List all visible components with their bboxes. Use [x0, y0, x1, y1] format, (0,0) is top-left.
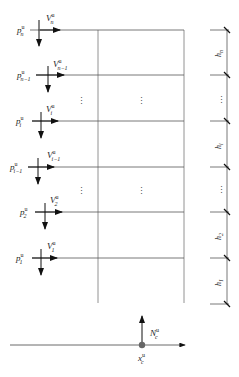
v-label-n: Vun	[46, 12, 55, 25]
v-label-i: Vui	[46, 103, 55, 116]
base-node	[139, 342, 145, 348]
v-label-n-1: Vun−1	[53, 58, 68, 71]
height-label-1: h1	[214, 279, 224, 286]
x-label: xuc	[137, 352, 145, 365]
ellipsis-left-upper: ⋮	[77, 96, 86, 106]
v-label-2: Vu2	[50, 194, 59, 207]
floor-1	[32, 249, 184, 275]
height-dimension	[210, 27, 230, 307]
frame-diagram: pun pun−1 pui pui−1 pu2 pu1 Vun Vun−1 Vu…	[0, 0, 239, 377]
floor-i	[32, 112, 184, 138]
height-ellipsis-lower: ⋮	[217, 185, 226, 195]
p-label-n: pun	[16, 24, 25, 37]
v-label-i-1: Vui−1	[47, 149, 60, 162]
height-label-n: hn	[214, 50, 224, 57]
height-ellipsis-upper: ⋮	[217, 95, 226, 105]
ellipsis-left-lower: ⋮	[77, 186, 86, 196]
p-label-2: pu2	[19, 206, 28, 219]
v-label-1: Vu1	[47, 240, 56, 253]
ellipsis-mid-lower: ⋮	[137, 186, 146, 196]
height-label-i: hi	[214, 143, 224, 149]
n-label: Nuc	[149, 327, 159, 340]
p-label-n-1: pun−1	[16, 69, 31, 82]
p-label-i: pui	[15, 115, 24, 128]
p-label-i-1: pui−1	[9, 161, 22, 174]
height-label-2: h2	[214, 233, 224, 240]
p-label-1: pu1	[15, 252, 24, 265]
ellipsis-mid-upper: ⋮	[137, 96, 146, 106]
